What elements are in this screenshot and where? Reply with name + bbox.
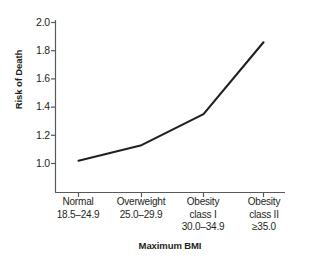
y-tick-label-2-0: 2.0 (20, 16, 50, 28)
x-axis-title: Maximum BMI (55, 240, 285, 251)
y-tick-label-1-0: 1.0 (20, 157, 50, 169)
y-tick-label-1-8: 1.8 (20, 44, 50, 56)
x-category-obesity-class-ii-line3: ≥35.0 (226, 221, 302, 234)
x-category-obesity-class-ii-line2: class II (226, 209, 302, 222)
x-category-obesity-class-ii-line1: Obesity (226, 196, 302, 209)
risk-of-death-line-chart: 2.0 1.8 1.6 1.4 1.2 1.0 Risk of Death No… (0, 0, 312, 262)
y-axis-ticks (51, 23, 55, 164)
risk-of-death-series-line (79, 42, 264, 160)
y-tick-label-1-6: 1.6 (20, 72, 50, 84)
y-tick-label-1-2: 1.2 (20, 129, 50, 141)
y-axis-title: Risk of Death (13, 35, 24, 125)
y-tick-label-1-4: 1.4 (20, 100, 50, 112)
x-category-obesity-class-ii: Obesity class II ≥35.0 (226, 196, 302, 234)
